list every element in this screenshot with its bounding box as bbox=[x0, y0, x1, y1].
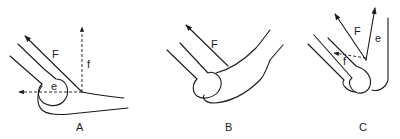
panel-c-force-F-arrow bbox=[335, 14, 366, 60]
panel-c-lower-bone bbox=[372, 18, 388, 91]
panel-a-label-F: F bbox=[52, 48, 59, 60]
panel-a-label-e: e bbox=[51, 80, 57, 92]
panel-c-edge-line bbox=[270, 45, 283, 60]
panel-c-force-e-arrow bbox=[366, 8, 375, 60]
panel-b: F B bbox=[167, 25, 270, 133]
panel-c-label-F: F bbox=[354, 25, 361, 37]
panel-c-caption: C bbox=[359, 121, 367, 133]
panel-a-label-f: f bbox=[87, 58, 91, 70]
panel-b-caption: B bbox=[225, 121, 232, 133]
panel-a: F f e A bbox=[10, 27, 128, 133]
diagram-canvas: F f e A F B F e f C bbox=[0, 0, 400, 139]
panel-a-upper-bone bbox=[10, 44, 68, 106]
panel-a-lower-bone-top bbox=[82, 92, 124, 98]
panel-c-label-e: e bbox=[375, 32, 381, 44]
panel-b-force-F-arrow bbox=[186, 25, 228, 66]
panel-b-label-F: F bbox=[211, 38, 218, 50]
panel-c-upper-bone-outer bbox=[308, 44, 356, 92]
panel-c: F e f C bbox=[270, 8, 388, 133]
panel-b-lower-bone-inner bbox=[216, 30, 270, 73]
panel-b-lower-bone-outer bbox=[203, 60, 270, 103]
panel-a-caption: A bbox=[76, 121, 84, 133]
